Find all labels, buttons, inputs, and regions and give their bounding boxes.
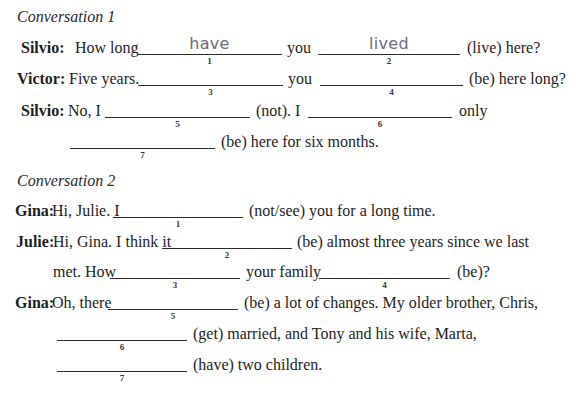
verb-hint: (live) here? xyxy=(467,38,540,58)
speaker-label: Silvio: xyxy=(21,101,65,121)
dialogue-text: you xyxy=(288,69,312,89)
c2-blank-3[interactable]: 3 xyxy=(110,262,240,279)
c1-blank-4[interactable]: 4 xyxy=(320,69,463,86)
blank-number: 3 xyxy=(110,281,240,290)
c1-blank-6[interactable]: 6 xyxy=(308,101,452,118)
speaker-label: Victor: xyxy=(17,69,65,89)
verb-hint: (not). I xyxy=(256,101,300,121)
dialogue-text: How long xyxy=(75,38,139,58)
handwritten-answer: lived xyxy=(318,34,460,54)
handwritten-answer: have xyxy=(137,34,282,54)
blank-number: 7 xyxy=(70,151,215,160)
conversation-2-heading: Conversation 2 xyxy=(17,172,115,190)
c2-line-6: 7 (have) two children. xyxy=(0,355,582,375)
c1-blank-1[interactable]: have 1 xyxy=(137,38,282,55)
c2-line-3: met. How 3 your family 4 (be)? xyxy=(0,262,582,282)
speaker-label: Gina: xyxy=(15,293,54,313)
blank-number: 7 xyxy=(57,374,187,383)
c2-line-5: 6 (get) married, and Tony and his wife, … xyxy=(0,324,582,344)
verb-hint: (have) two children. xyxy=(193,355,322,375)
c2-blank-1[interactable]: 1 xyxy=(113,201,243,218)
verb-hint: (get) married, and Tony and his wife, Ma… xyxy=(193,324,477,344)
verb-hint: (be) here for six months. xyxy=(221,132,379,152)
blank-number: 4 xyxy=(319,281,450,290)
dialogue-text: Five years. xyxy=(69,69,139,89)
dialogue-text: Hi, Gina. I think it xyxy=(53,232,171,252)
blank-number: 2 xyxy=(162,251,292,260)
dialogue-text: your family xyxy=(246,262,321,282)
c1-line-3: Silvio: No, I 5 (not). I 6 only xyxy=(0,101,582,121)
c1-line-2: Victor: Five years. 3 you 4 (be) here lo… xyxy=(0,69,582,89)
verb-hint: (be) a lot of changes. My older brother,… xyxy=(244,293,538,313)
c2-line-1: Gina: Hi, Julie. I 1 (not/see) you for a… xyxy=(0,201,582,221)
speaker-label: Silvio: xyxy=(21,38,65,58)
speaker-label: Julie: xyxy=(16,232,54,252)
verb-hint: (be)? xyxy=(457,262,490,282)
c1-blank-5[interactable]: 5 xyxy=(105,101,250,118)
blank-number: 6 xyxy=(308,120,452,129)
c2-blank-7[interactable]: 7 xyxy=(57,355,187,372)
speaker-label: Gina: xyxy=(15,201,54,221)
dialogue-text: Oh, there xyxy=(52,293,112,313)
c1-blank-2[interactable]: lived 2 xyxy=(318,38,460,55)
c2-blank-4[interactable]: 4 xyxy=(319,262,450,279)
c1-blank-3[interactable]: 3 xyxy=(138,69,283,86)
blank-number: 6 xyxy=(57,343,187,352)
blank-number: 4 xyxy=(320,88,463,97)
c2-blank-2[interactable]: 2 xyxy=(162,232,292,249)
blank-number: 3 xyxy=(138,88,283,97)
blank-number: 5 xyxy=(105,120,250,129)
dialogue-text: met. How xyxy=(53,262,116,282)
verb-hint: (be) here long? xyxy=(469,69,566,89)
dialogue-text: Hi, Julie. I xyxy=(52,201,120,221)
blank-number: 1 xyxy=(137,57,282,66)
c2-blank-5[interactable]: 5 xyxy=(108,293,238,310)
c1-blank-7[interactable]: 7 xyxy=(70,132,215,149)
blank-number: 5 xyxy=(108,312,238,321)
c1-line-4: 7 (be) here for six months. xyxy=(0,132,582,152)
verb-hint: (not/see) you for a long time. xyxy=(249,201,436,221)
verb-hint: (be) almost three years since we last xyxy=(297,232,529,252)
dialogue-text: only xyxy=(459,101,487,121)
c2-line-4: Gina: Oh, there 5 (be) a lot of changes.… xyxy=(0,293,582,313)
dialogue-text: you xyxy=(287,38,311,58)
blank-number: 2 xyxy=(318,57,460,66)
dialogue-text: No, I xyxy=(68,101,101,121)
c1-line-1: Silvio: How long have 1 you lived 2 (liv… xyxy=(0,38,582,58)
conversation-1-heading: Conversation 1 xyxy=(17,8,115,26)
blank-number: 1 xyxy=(113,220,243,229)
c2-blank-6[interactable]: 6 xyxy=(57,324,187,341)
c2-line-2: Julie: Hi, Gina. I think it 2 (be) almos… xyxy=(0,232,582,252)
